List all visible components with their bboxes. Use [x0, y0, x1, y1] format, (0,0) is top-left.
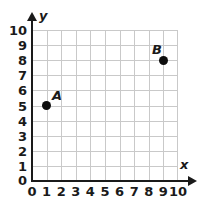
- data-point-label-b: B: [152, 43, 162, 56]
- data-point-b: [159, 56, 168, 65]
- gridline-horizontal: [32, 75, 178, 76]
- y-tick-label: 9: [1, 39, 27, 52]
- coordinate-plane-figure: A B y x 10 9 8 7 6 5 4 3 2 1 0 0 1 2 3 4…: [0, 0, 208, 210]
- y-tick-label: 2: [1, 145, 27, 158]
- y-tick-label: 8: [1, 54, 27, 67]
- data-point-a: [42, 101, 51, 110]
- x-axis-line: [31, 180, 189, 182]
- y-tick-label: 6: [1, 84, 27, 97]
- y-tick-label: 5: [1, 100, 27, 113]
- x-axis-label: x: [180, 157, 188, 172]
- gridline-horizontal: [32, 60, 178, 61]
- gridline-horizontal: [32, 106, 178, 107]
- y-axis-line: [31, 20, 33, 182]
- x-tick-label: 10: [168, 185, 188, 198]
- y-tick-label: 7: [1, 69, 27, 82]
- y-axis-label: y: [39, 8, 47, 23]
- gridline-horizontal: [32, 136, 178, 137]
- gridline-horizontal: [32, 151, 178, 152]
- y-tick-label: 10: [1, 24, 27, 37]
- y-tick-label: 4: [1, 115, 27, 128]
- y-axis-arrow-icon: [27, 12, 37, 21]
- gridline-horizontal: [32, 166, 178, 167]
- y-tick-label: 3: [1, 130, 27, 143]
- data-point-label-a: A: [52, 89, 62, 102]
- gridline-horizontal: [32, 121, 178, 122]
- y-tick-label: 1: [1, 160, 27, 173]
- x-axis-arrow-icon: [188, 176, 197, 186]
- gridline-horizontal: [32, 30, 178, 31]
